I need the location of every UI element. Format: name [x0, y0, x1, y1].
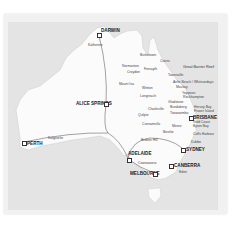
city-marker-icon [97, 33, 102, 38]
city-perth[interactable]: PERTH [27, 142, 43, 147]
town-longreach[interactable]: Longreach [140, 95, 156, 98]
town-toowoomba[interactable]: Toowoomba [170, 112, 188, 115]
town-airlie-beach[interactable]: Airlie Beach / Whitsundays [173, 81, 213, 84]
city-marker-icon [181, 148, 186, 153]
town-moree[interactable]: Moree [172, 125, 182, 128]
city-canberra[interactable]: CANBERRA [174, 164, 200, 169]
town-townsville[interactable]: Townsville [168, 74, 183, 77]
town-cairns[interactable]: Cairns [160, 60, 170, 63]
town-kalgoorlie[interactable]: Kalgoorlie [48, 137, 63, 140]
town-mount-isa[interactable]: Mount Isa [119, 83, 134, 86]
town-charleville[interactable]: Charleville [148, 108, 164, 111]
tasmania [148, 188, 161, 203]
town-byron-bay[interactable]: Byron Bay [193, 125, 209, 128]
town-quilpie[interactable]: Quilpie [138, 114, 149, 117]
city-adelaide[interactable]: ADELAIDE [128, 152, 151, 157]
town-katherine[interactable]: Katherine [88, 44, 103, 47]
town-eden[interactable]: Eden [179, 171, 187, 174]
town-croydon[interactable]: Croydon [127, 71, 140, 74]
town-normanton[interactable]: Normanton [122, 65, 139, 68]
town-coffs-harbour[interactable]: Coffs Harbour [193, 133, 214, 136]
city-darwin[interactable]: DARWIN [101, 29, 120, 34]
town-dubbo[interactable]: Dubbo [191, 141, 201, 144]
town-gladstone[interactable]: Gladstone [168, 101, 183, 104]
city-sydney[interactable]: SYDNEY [186, 148, 205, 153]
town-broken-hill[interactable]: Broken Hill [141, 139, 157, 142]
australia-map [0, 0, 233, 227]
city-marker-icon [104, 102, 109, 107]
town-fraser-island[interactable]: Fraser Island [194, 110, 214, 113]
town-burketown[interactable]: Burketown [140, 54, 156, 57]
town-bundaberg[interactable]: Bundaberg [170, 106, 187, 109]
city-marker-icon [127, 158, 132, 163]
city-marker-icon [153, 172, 158, 177]
city-marker-icon [22, 141, 27, 146]
town-bourke[interactable]: Bourke [163, 131, 174, 134]
town-cunnamulla[interactable]: Cunnamulla [142, 123, 160, 126]
town-winton[interactable]: Winton [142, 87, 153, 90]
town-mackay[interactable]: Mackay [176, 86, 188, 89]
region-great-barrier-reef: Great Barrier Reef [183, 66, 214, 70]
town-forsayth[interactable]: Forsayth [144, 68, 157, 71]
city-marker-icon [169, 164, 174, 169]
town-coonawarra[interactable]: Coonawarra [138, 162, 156, 165]
town-rockhampton[interactable]: Rockhampton [183, 96, 204, 99]
